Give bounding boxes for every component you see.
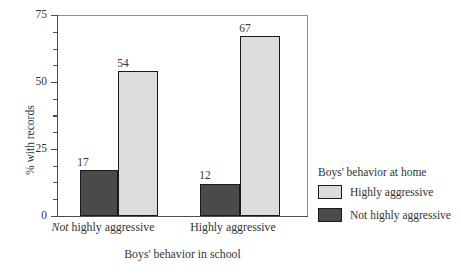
y-tick-label-0: 0 bbox=[41, 210, 47, 222]
legend-label-not-highly-aggressive: Not highly aggressive bbox=[350, 209, 451, 221]
bar-group1-highly-aggressive bbox=[118, 71, 158, 216]
bar-group1-not-highly-aggressive bbox=[80, 170, 118, 216]
x-category-label-2: Highly aggressive bbox=[178, 221, 288, 234]
x-category-label-1: Not highly aggressive bbox=[38, 221, 168, 234]
legend: Boys' behavior at home Highly aggressive… bbox=[318, 166, 461, 231]
y-tick-label-50: 50 bbox=[36, 76, 48, 88]
bars-layer bbox=[57, 15, 308, 216]
bar-group2-not-highly-aggressive bbox=[200, 184, 240, 216]
legend-title: Boys' behavior at home bbox=[318, 166, 461, 179]
x-axis-title: Boys' behavior in school bbox=[57, 248, 308, 261]
y-axis-title: % with records bbox=[24, 65, 36, 175]
legend-label-highly-aggressive: Highly aggressive bbox=[350, 186, 433, 198]
legend-swatch-not-highly-aggressive bbox=[318, 208, 342, 222]
bar-value-group2-light: 67 bbox=[225, 23, 265, 35]
legend-swatch-highly-aggressive bbox=[318, 185, 342, 199]
bar-group2-highly-aggressive bbox=[240, 36, 280, 216]
bar-value-group2-dark: 12 bbox=[185, 170, 225, 182]
x-category-label-1-italic: Not bbox=[52, 220, 69, 234]
bar-value-group1-dark: 17 bbox=[64, 157, 102, 169]
legend-item-not-highly-aggressive: Not highly aggressive bbox=[318, 208, 461, 222]
bar-chart: 75 50 25 0 % with records 17 54 12 67 No… bbox=[0, 0, 461, 279]
y-tick-label-75: 75 bbox=[36, 9, 48, 21]
x-category-label-1-rest: highly aggressive bbox=[69, 220, 155, 234]
legend-item-highly-aggressive: Highly aggressive bbox=[318, 185, 461, 199]
bar-value-group1-light: 54 bbox=[103, 58, 143, 70]
y-tick-label-25: 25 bbox=[36, 143, 48, 155]
